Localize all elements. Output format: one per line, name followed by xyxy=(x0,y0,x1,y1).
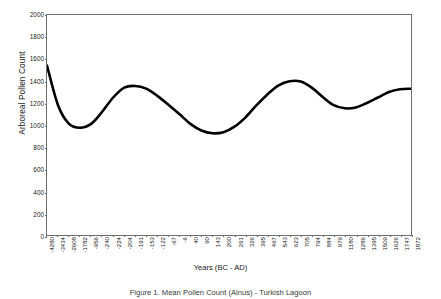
x-tick-label: 467 xyxy=(271,237,277,247)
x-tick-label: 543 xyxy=(282,237,288,247)
y-tick-label: 1800 xyxy=(30,34,44,40)
x-tick-label: 90 xyxy=(204,237,210,244)
x-axis-title: Years (BC - AD) xyxy=(0,263,441,272)
x-tick-mark xyxy=(301,235,302,238)
x-tick-label: 884 xyxy=(326,237,332,247)
x-tick-label: 623 xyxy=(293,237,299,247)
x-tick-mark xyxy=(113,235,114,238)
y-tick-mark xyxy=(45,37,48,38)
y-tick-label: 1200 xyxy=(30,101,44,107)
x-tick-label: 1180 xyxy=(349,237,355,250)
y-tick-mark xyxy=(45,148,48,149)
figure-caption: Figure 1. Mean Pollen Count (Alnus) - Tu… xyxy=(0,288,441,297)
y-tick-mark xyxy=(45,193,48,194)
x-tick-mark xyxy=(46,235,47,238)
y-tick-label: 1400 xyxy=(30,78,44,84)
x-tick-mark xyxy=(246,235,247,238)
x-tick-label: -67 xyxy=(171,237,177,246)
x-tick-label: -956 xyxy=(93,237,99,249)
series-path xyxy=(47,66,411,134)
x-tick-label: -224 xyxy=(116,237,122,249)
x-tick-mark xyxy=(401,235,402,238)
x-tick-mark xyxy=(146,235,147,238)
y-tick-mark xyxy=(45,170,48,171)
y-tick-label: 600 xyxy=(33,167,44,173)
x-tick-label: -2608 xyxy=(71,237,77,253)
x-tick-mark xyxy=(390,235,391,238)
x-tick-label: 1286 xyxy=(360,237,366,251)
x-tick-label: -204 xyxy=(127,237,133,249)
y-tick-mark xyxy=(45,15,48,16)
y-tick-label: 1600 xyxy=(30,56,44,62)
y-tick-mark xyxy=(45,126,48,127)
pollen-count-line-series xyxy=(47,15,411,235)
x-tick-mark xyxy=(412,235,413,238)
x-tick-label: 705 xyxy=(304,237,310,247)
x-tick-label: 143 xyxy=(215,237,221,247)
x-tick-label: 261 xyxy=(238,237,244,247)
x-tick-label: -153 xyxy=(149,237,155,249)
x-tick-label: 1626 xyxy=(393,237,399,251)
x-tick-label: 1872 xyxy=(415,237,421,251)
x-tick-mark xyxy=(257,235,258,238)
x-tick-mark xyxy=(179,235,180,238)
x-tick-label: -122 xyxy=(160,237,166,249)
y-tick-label: 200 xyxy=(33,212,44,218)
y-tick-mark xyxy=(45,215,48,216)
x-tick-label: 1509 xyxy=(382,237,388,251)
x-tick-label: 40 xyxy=(193,237,199,244)
x-tick-mark xyxy=(168,235,169,238)
x-tick-label: -1782 xyxy=(82,237,88,253)
x-tick-mark xyxy=(268,235,269,238)
x-tick-mark xyxy=(57,235,58,238)
y-tick-label: 400 xyxy=(33,189,44,195)
x-tick-label: -3434 xyxy=(60,237,66,253)
x-tick-label: -191 xyxy=(138,237,144,249)
y-tick-mark xyxy=(45,104,48,105)
x-tick-mark xyxy=(357,235,358,238)
x-tick-label: 794 xyxy=(315,237,321,247)
plot-area: 0200400600800100012001400160018002000 xyxy=(46,14,412,236)
x-tick-label: 1747 xyxy=(404,237,410,251)
x-tick-mark xyxy=(190,235,191,238)
x-tick-label: 326 xyxy=(249,237,255,247)
x-tick-label: 1395 xyxy=(371,237,377,251)
y-tick-label: 0 xyxy=(40,234,44,240)
y-axis-title: Arboreal Pollen Count xyxy=(17,23,27,163)
x-tick-mark xyxy=(124,235,125,238)
x-tick-mark xyxy=(290,235,291,238)
pollen-count-chart-figure: Arboreal Pollen Count 020040060080010001… xyxy=(0,0,441,299)
x-tick-label: 200 xyxy=(227,237,233,247)
x-tick-label: -6 xyxy=(182,237,188,242)
x-tick-mark xyxy=(235,235,236,238)
x-tick-label: 395 xyxy=(260,237,266,247)
x-tick-label: -4280 xyxy=(49,237,55,253)
x-tick-mark xyxy=(379,235,380,238)
y-tick-label: 1000 xyxy=(30,123,44,129)
y-tick-label: 800 xyxy=(33,145,44,151)
y-tick-mark xyxy=(45,82,48,83)
x-tick-mark xyxy=(68,235,69,238)
x-tick-mark xyxy=(157,235,158,238)
x-tick-mark xyxy=(368,235,369,238)
y-tick-label: 2000 xyxy=(30,12,44,18)
x-tick-label: 979 xyxy=(337,237,343,247)
x-tick-mark xyxy=(279,235,280,238)
x-tick-mark xyxy=(312,235,313,238)
x-tick-label: -240 xyxy=(105,237,111,249)
y-tick-mark xyxy=(45,59,48,60)
x-tick-mark xyxy=(135,235,136,238)
